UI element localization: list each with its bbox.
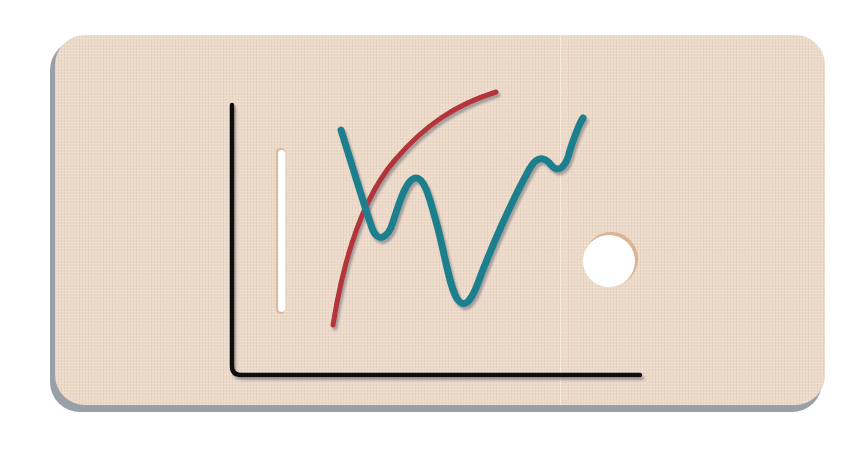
axes [232, 105, 640, 375]
teal-fluctuating-line [341, 118, 583, 304]
chart-illustration [0, 0, 866, 476]
hole-cutout [583, 232, 638, 287]
slit-cutout [276, 148, 285, 314]
